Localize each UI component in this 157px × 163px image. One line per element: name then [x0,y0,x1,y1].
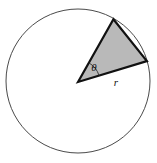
figure-container: θ r [0,0,157,163]
circle-sector-diagram: θ r [0,0,157,163]
radius-label: r [114,76,119,88]
theta-label: θ [91,61,97,73]
